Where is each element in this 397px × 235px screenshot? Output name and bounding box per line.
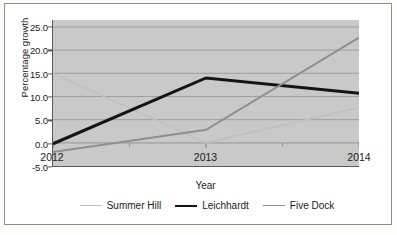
y-axis-tick-label: 15.0 (2, 68, 48, 79)
series-line-leichhardt (53, 78, 359, 144)
legend-label: Summer Hill (107, 200, 161, 211)
y-axis-tick-label: 5.0 (2, 115, 48, 126)
plot-area (52, 20, 359, 167)
y-axis-ticks: 25.020.015.010.05.00.0-5.0 (0, 20, 48, 167)
y-axis-tick-label: 0.0 (2, 138, 48, 149)
plot-svg (53, 20, 359, 166)
legend-line-swatch (263, 205, 285, 206)
legend-entry-leichhardt[interactable]: Leichhardt (175, 200, 249, 211)
chart-legend: Summer HillLeichhardtFive Dock (52, 200, 362, 211)
y-axis-tick-label: 25.0 (2, 22, 48, 33)
y-axis-tick-label: -5.0 (2, 162, 48, 173)
legend-entry-five-dock[interactable]: Five Dock (263, 200, 334, 211)
chart-figure: Percentage growth 25.020.015.010.05.00.0… (0, 0, 397, 235)
y-axis-tick-label: 10.0 (2, 92, 48, 103)
legend-label: Five Dock (290, 200, 334, 211)
y-axis-tick-label: 20.0 (2, 45, 48, 56)
series-line-summer-hill (53, 73, 359, 143)
legend-label: Leichhardt (202, 200, 249, 211)
legend-line-swatch (80, 205, 102, 206)
legend-entry-summer-hill[interactable]: Summer Hill (80, 200, 161, 211)
x-axis-title: Year (52, 180, 359, 191)
series-lines (53, 38, 359, 152)
legend-line-swatch (175, 205, 197, 207)
